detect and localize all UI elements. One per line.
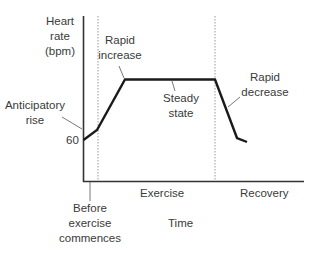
annotation-line: exercise: [58, 216, 122, 231]
rapid-decrease-leader: [228, 97, 240, 107]
annotation-line: Rapid: [240, 70, 290, 85]
y-axis-label-line: Heart: [44, 14, 76, 29]
annotation-line: decrease: [240, 85, 290, 100]
before-exercise-label: Before exercise commences: [58, 201, 122, 246]
y-tick-60: 60: [66, 133, 79, 148]
steady-state-leader: [172, 81, 175, 91]
annotation-line: Before: [58, 201, 122, 216]
steady-state-label: Steady state: [162, 91, 200, 121]
phase-recovery-label: Recovery: [240, 186, 289, 201]
y-axis-label: Heart rate (bpm): [44, 14, 76, 59]
y-axis-label-line: rate: [44, 29, 76, 44]
rapid-decrease-label: Rapid decrease: [240, 70, 290, 100]
annotation-line: increase: [98, 48, 142, 63]
annotation-line: Rapid: [98, 33, 142, 48]
annotation-line: Anticipatory: [0, 98, 70, 113]
annotation-line: rise: [0, 113, 70, 128]
annotation-line: Steady: [162, 91, 200, 106]
annotation-line: state: [162, 106, 200, 121]
phase-exercise-label: Exercise: [140, 186, 184, 201]
y-axis-label-line: (bpm): [44, 44, 76, 59]
rapid-increase-leader: [119, 66, 124, 78]
anticipatory-rise-label: Anticipatory rise: [0, 98, 70, 128]
x-axis-label: Time: [168, 216, 193, 231]
rapid-increase-label: Rapid increase: [98, 33, 142, 63]
annotation-line: commences: [58, 231, 122, 246]
